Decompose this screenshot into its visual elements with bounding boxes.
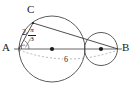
label-diameter-6: 6 [63, 56, 69, 64]
label-length-ac: 2 [22, 29, 26, 37]
angle-denominator: 3 [28, 36, 36, 43]
point-c-dot [32, 22, 34, 24]
small-circle-center-dot [99, 47, 103, 51]
label-point-c: C [27, 4, 34, 15]
segment-cb [33, 23, 118, 49]
angle-numerator: π [28, 27, 36, 34]
large-circle-center-dot [50, 47, 54, 51]
geometry-canvas [0, 0, 135, 92]
label-point-a: A [2, 42, 10, 53]
label-angle-pi-over-3: π 3 [28, 27, 36, 44]
geometry-figure: A B C 2 π 3 6 [0, 0, 135, 92]
label-point-b: B [122, 42, 129, 53]
